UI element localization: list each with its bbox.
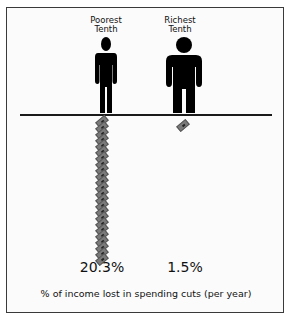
poorest-label-line2: Tenth xyxy=(76,25,136,34)
richest-label-line2: Tenth xyxy=(150,25,210,34)
rich-value-label: 1.5% xyxy=(150,259,220,275)
rich-person-icon xyxy=(164,37,204,115)
poor-value-label: 20.3% xyxy=(67,259,137,275)
poor-person-icon xyxy=(93,37,119,115)
chart-frame xyxy=(6,7,284,313)
richest-tenth-label: Richest Tenth xyxy=(150,16,210,34)
poorest-tenth-label: Poorest Tenth xyxy=(76,16,136,34)
baseline-axis xyxy=(20,114,272,116)
x-axis-caption: % of income lost in spending cuts (per y… xyxy=(0,288,292,299)
